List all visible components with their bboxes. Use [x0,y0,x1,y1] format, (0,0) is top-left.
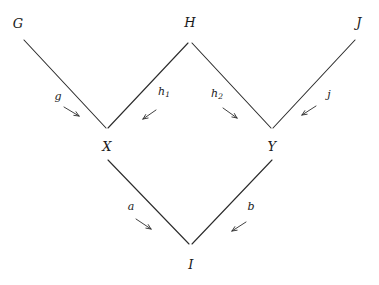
arrow-marker-h1 [143,110,156,119]
node-label-I: I [188,258,193,271]
edge-label-j: j [327,89,330,100]
edge-line-g [24,40,106,128]
arrow-marker-a [136,219,151,229]
arrow-marker-h2 [223,108,237,118]
node-label-H: H [184,16,196,29]
edge-label-b: b [247,201,254,212]
arrow-marker-j [302,106,316,115]
edge-lines-group [24,40,355,244]
diagram-edges-layer [0,0,379,285]
edge-label-g: g [54,91,61,102]
arrow-marker-b [232,222,246,231]
arrow-marker-g [64,107,79,116]
edge-line-a [108,160,189,244]
edge-label-h1: h1 [158,86,170,98]
edge-line-h2 [192,43,271,128]
edge-label-h2: h2 [211,88,223,100]
node-label-Y: Y [268,140,277,153]
node-label-G: G [13,17,24,30]
node-label-X: X [102,140,111,153]
edge-arrows-group [64,106,316,231]
edge-label-a: a [128,201,135,212]
diagram-canvas: G H J X Y I g h1 h2 j a b [0,0,379,285]
edge-line-j [273,40,355,128]
node-label-J: J [356,16,361,29]
